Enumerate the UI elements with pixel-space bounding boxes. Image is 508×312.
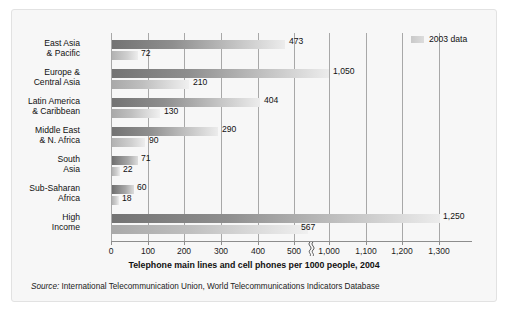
x-ticklabel-300: 300	[214, 246, 228, 256]
legend-label-2003: 2003 data	[429, 34, 467, 44]
chart-figure: 2003 data East Asia & Pacific 473 72 Eur…	[11, 9, 497, 302]
gridline-1200	[402, 33, 403, 241]
value-label-2003-sub-saharan-africa: 18	[122, 193, 132, 203]
gridline-1300	[439, 33, 440, 241]
bar-2003-high-income	[112, 225, 308, 234]
bar-2003-latin-america-caribbean	[112, 109, 160, 118]
source-prefix: Source:	[31, 282, 59, 291]
bar-2003-east-asia-pacific	[112, 51, 138, 60]
x-ticklabel-1200: 1,200	[391, 246, 412, 256]
category-label-middle-east-n-africa: Middle East & N. Africa	[0, 125, 80, 145]
gridline-1000	[329, 33, 330, 241]
source-note: Source: International Telecommunication …	[31, 282, 380, 291]
x-tick-1000	[329, 241, 330, 245]
x-ticklabel-0: 0	[109, 246, 114, 256]
category-label-europe-central-asia: Europe & Central Asia	[0, 67, 80, 87]
bar-2004-middle-east-n-africa	[112, 127, 218, 136]
value-label-2003-south-asia: 22	[123, 164, 133, 174]
category-label-east-asia-pacific: East Asia & Pacific	[0, 38, 80, 58]
bar-2003-middle-east-n-africa	[112, 138, 145, 147]
bar-2004-high-income	[112, 214, 440, 223]
x-tick-400	[258, 241, 259, 245]
value-label-2003-east-asia-pacific: 72	[141, 48, 151, 58]
x-axis-line	[111, 241, 472, 242]
value-label-2003-latin-america-caribbean: 130	[164, 106, 178, 116]
value-label-2004-middle-east-n-africa: 290	[222, 124, 236, 134]
plot-area: 2003 data East Asia & Pacific 473 72 Eur…	[12, 10, 496, 301]
gridline-500	[294, 33, 295, 241]
x-tick-0	[111, 241, 112, 245]
x-tick-500	[294, 241, 295, 245]
x-tick-1300	[439, 241, 440, 245]
axis-break-icon	[304, 241, 318, 257]
bar-2003-south-asia	[112, 167, 120, 176]
gridline-300	[221, 33, 222, 241]
bar-2003-sub-saharan-africa	[112, 196, 119, 205]
value-label-2003-high-income: 567	[301, 222, 315, 232]
x-tick-100	[148, 241, 149, 245]
bar-2004-latin-america-caribbean	[112, 98, 260, 107]
legend-swatch-2003	[411, 36, 424, 43]
source-text: International Telecommunication Union, W…	[62, 282, 380, 291]
gridline-200	[184, 33, 185, 241]
x-tick-1100	[366, 241, 367, 245]
gridline-0	[111, 33, 112, 241]
x-ticklabel-100: 100	[141, 246, 155, 256]
category-label-sub-saharan-africa: Sub-Saharan Africa	[0, 183, 80, 203]
legend: 2003 data	[411, 34, 467, 44]
bar-2003-europe-central-asia	[112, 80, 189, 89]
value-label-2004-east-asia-pacific: 473	[289, 36, 303, 46]
value-label-2004-high-income: 1,250	[443, 211, 465, 221]
bar-2004-east-asia-pacific	[112, 40, 285, 49]
x-ticklabel-400: 400	[251, 246, 265, 256]
category-label-high-income: High Income	[0, 212, 80, 232]
x-axis-title: Telephone main lines and cell phones per…	[12, 260, 496, 270]
bar-2004-europe-central-asia	[112, 69, 329, 78]
value-label-2004-sub-saharan-africa: 60	[137, 182, 147, 192]
gridline-1100	[366, 33, 367, 241]
x-tick-1200	[402, 241, 403, 245]
x-tick-300	[221, 241, 222, 245]
category-label-latin-america-caribbean: Latin America & Caribbean	[0, 96, 80, 116]
value-label-2004-south-asia: 71	[141, 153, 151, 163]
x-ticklabel-200: 200	[177, 246, 191, 256]
value-label-2004-latin-america-caribbean: 404	[264, 95, 278, 105]
value-label-2003-europe-central-asia: 210	[193, 77, 207, 87]
category-label-south-asia: South Asia	[0, 154, 80, 174]
value-label-2003-middle-east-n-africa: 90	[149, 135, 159, 145]
value-label-2004-europe-central-asia: 1,050	[333, 66, 355, 76]
x-ticklabel-1300: 1,300	[428, 246, 449, 256]
x-ticklabel-500: 500	[287, 246, 301, 256]
x-ticklabel-1100: 1,100	[355, 246, 376, 256]
gridline-400	[258, 33, 259, 241]
x-tick-200	[184, 241, 185, 245]
x-ticklabel-1000: 1,000	[318, 246, 339, 256]
